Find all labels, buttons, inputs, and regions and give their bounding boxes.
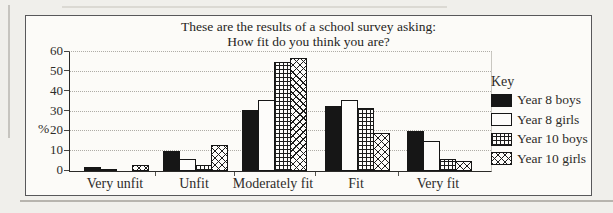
- legend-swatch-year-8-girls: [491, 113, 512, 126]
- y-tick-mark-20: [64, 130, 69, 131]
- y-tick-label-20: 20: [33, 122, 63, 137]
- bar-year-10-boys-moderately-fit: [274, 62, 291, 171]
- bar-year-10-girls-very-fit: [455, 161, 472, 171]
- bar-year-8-boys-fit: [325, 106, 342, 171]
- legend-item-year-10-girls: Year 10 girls: [491, 152, 588, 166]
- bar-year-10-girls-very-unfit: [132, 165, 149, 171]
- bar-year-8-girls-fit: [341, 100, 358, 171]
- bar-year-10-girls-unfit: [211, 145, 228, 171]
- bar-year-8-girls-moderately-fit: [258, 100, 275, 171]
- bar-year-8-boys-moderately-fit: [242, 110, 259, 171]
- survey-chart-panel: These are the results of a school survey…: [25, 15, 592, 196]
- x-tick-mark-3: [315, 172, 316, 176]
- legend-item-year-8-girls: Year 8 girls: [491, 113, 588, 127]
- legend-label-year-10-boys: Year 10 boys: [517, 132, 588, 146]
- legend-title: Key: [491, 73, 588, 90]
- y-tick-mark-30: [64, 110, 69, 111]
- legend-swatch-year-10-girls: [491, 152, 512, 165]
- bar-year-10-girls-moderately-fit: [290, 58, 307, 171]
- bar-year-10-boys-very-fit: [439, 159, 456, 171]
- y-tick-label-30: 30: [33, 103, 63, 118]
- bar-year-8-girls-very-fit: [423, 141, 440, 171]
- chart-title-line2: How fit do you think you are?: [26, 34, 591, 49]
- y-tick-mark-40: [64, 90, 69, 91]
- chart-title-line1: These are the results of a school survey…: [26, 19, 591, 34]
- bar-year-8-boys-very-unfit: [84, 167, 101, 171]
- scan-artifact-top-shadow: [62, 6, 447, 8]
- y-tick-label-50: 50: [33, 63, 63, 78]
- legend-item-year-8-boys: Year 8 boys: [491, 93, 588, 107]
- y-tick-mark-10: [64, 150, 69, 151]
- chart-title: These are the results of a school survey…: [26, 19, 591, 49]
- bar-year-10-boys-fit: [357, 108, 374, 171]
- x-tick-mark-1: [155, 172, 156, 176]
- plot-area: [69, 51, 492, 172]
- y-tick-mark-50: [64, 70, 69, 71]
- legend-label-year-10-girls: Year 10 girls: [517, 152, 586, 166]
- legend-label-year-8-girls: Year 8 girls: [517, 113, 579, 127]
- y-tick-mark-60: [64, 51, 69, 52]
- x-tick-mark-2: [234, 172, 235, 176]
- scan-artifact-bottom-shadow: [20, 200, 613, 202]
- bar-year-8-boys-unfit: [163, 151, 180, 171]
- category-label-very-fit: Very fit: [378, 176, 498, 192]
- x-tick-mark-4: [398, 172, 399, 176]
- legend-item-year-10-boys: Year 10 boys: [491, 132, 588, 146]
- bar-year-8-girls-very-unfit: [100, 169, 117, 171]
- bar-year-8-boys-very-fit: [407, 131, 424, 171]
- y-tick-label-60: 60: [33, 43, 63, 58]
- bar-year-8-girls-unfit: [179, 159, 196, 171]
- scan-artifact-left-edge: [8, 5, 10, 138]
- legend-label-year-8-boys: Year 8 boys: [517, 93, 581, 107]
- bar-year-10-girls-fit: [373, 133, 390, 171]
- y-tick-mark-0: [64, 170, 69, 171]
- legend-swatch-year-10-boys: [491, 133, 512, 146]
- legend: Key Year 8 boysYear 8 girlsYear 10 boysY…: [491, 73, 588, 171]
- y-tick-label-10: 10: [33, 142, 63, 157]
- y-tick-label-0: 0: [33, 162, 63, 177]
- bar-year-10-boys-unfit: [195, 165, 212, 171]
- legend-swatch-year-8-boys: [491, 94, 512, 107]
- legend-rows: Year 8 boysYear 8 girlsYear 10 boysYear …: [491, 93, 588, 166]
- y-tick-label-40: 40: [33, 83, 63, 98]
